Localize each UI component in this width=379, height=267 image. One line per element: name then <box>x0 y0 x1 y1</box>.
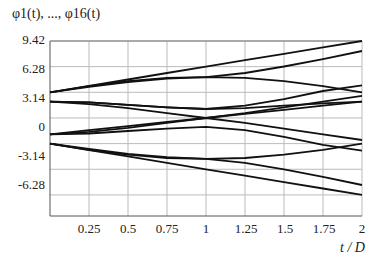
plot-area <box>0 0 379 267</box>
